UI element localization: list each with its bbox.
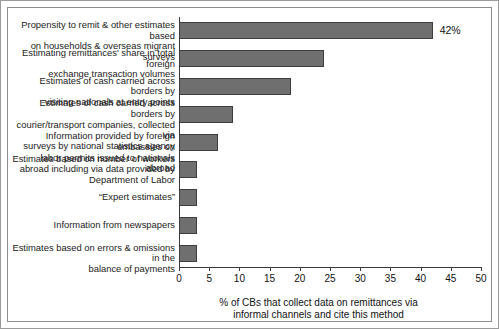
x-axis-tick xyxy=(390,267,391,271)
x-axis-tick-label: 15 xyxy=(264,273,275,284)
x-axis-tick xyxy=(239,267,240,271)
x-axis-tick xyxy=(270,267,271,271)
x-axis-tick-label: 50 xyxy=(475,273,486,284)
x-axis-tick xyxy=(300,267,301,271)
x-axis-tick-label: 40 xyxy=(415,273,426,284)
bar xyxy=(179,50,324,67)
frame-right-rule xyxy=(491,7,492,322)
category-label: “Expert estimates” xyxy=(11,192,175,203)
category-label: Information from newspapers xyxy=(11,220,175,231)
frame-bottom-rule xyxy=(7,321,492,322)
category-label: Estimates based on errors & omissions in… xyxy=(11,243,175,275)
x-axis-tick xyxy=(451,267,452,271)
bar xyxy=(179,22,433,39)
category-axis-labels: Propensity to remit & other estimates ba… xyxy=(11,17,175,267)
x-axis-tick-label: 10 xyxy=(234,273,245,284)
x-axis-tick xyxy=(330,267,331,271)
bar xyxy=(179,217,197,234)
bar xyxy=(179,106,233,123)
bar xyxy=(179,189,197,206)
x-axis-tick-label: 30 xyxy=(355,273,366,284)
frame-left-rule xyxy=(7,7,8,322)
x-axis-tick-label: 35 xyxy=(385,273,396,284)
bar-value-label: 42% xyxy=(440,22,461,39)
x-axis-tick xyxy=(209,267,210,271)
x-axis-tick-label: 45 xyxy=(445,273,456,284)
bar xyxy=(179,161,197,178)
x-axis-tick xyxy=(360,267,361,271)
x-axis-tick-label: 5 xyxy=(206,273,212,284)
plot-area: 42%05101520253035404550 xyxy=(179,17,481,267)
frame-top-rule xyxy=(7,7,492,8)
bar xyxy=(179,134,218,151)
x-axis-tick xyxy=(179,267,180,271)
x-axis-title: % of CBs that collect data on remittance… xyxy=(151,297,486,321)
bar xyxy=(179,78,291,95)
x-axis-tick-label: 20 xyxy=(294,273,305,284)
x-axis-tick-label: 0 xyxy=(176,273,182,284)
category-label: Estimates based on number of workers abr… xyxy=(11,154,175,186)
x-axis-tick xyxy=(481,267,482,271)
x-axis-tick xyxy=(421,267,422,271)
bar xyxy=(179,245,197,262)
chart-figure: Propensity to remit & other estimates ba… xyxy=(0,0,499,329)
x-axis-tick-label: 25 xyxy=(324,273,335,284)
